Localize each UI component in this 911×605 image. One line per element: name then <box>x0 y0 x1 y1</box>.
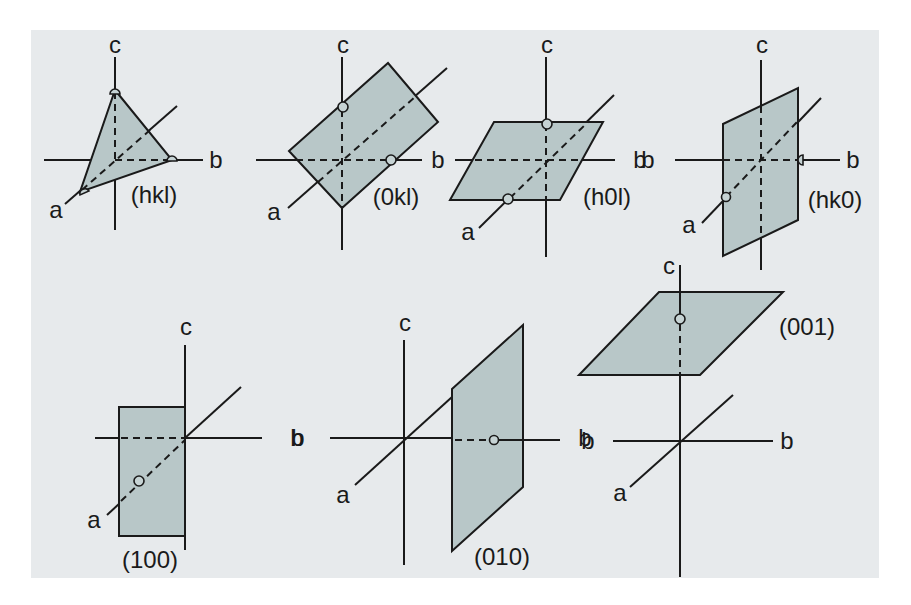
axis-label-b-left: b <box>290 426 303 450</box>
intercept-b <box>490 436 499 445</box>
intercept-b <box>167 156 177 161</box>
axis-label-a: a <box>267 200 280 224</box>
plane-label-001: (001) <box>779 315 835 339</box>
plane-label-h0l: (h0l) <box>583 185 631 209</box>
plane-hkl <box>80 90 172 192</box>
axis-label-a: a <box>461 220 474 244</box>
axis-label-c: c <box>756 33 768 57</box>
intercept-c <box>338 102 348 112</box>
panel-001 <box>579 265 783 577</box>
axis-label-c: c <box>180 315 192 339</box>
intercept-b <box>386 155 396 165</box>
intercept-a <box>134 476 144 486</box>
axis-label-b-right: b <box>846 148 859 172</box>
panel-0kl <box>256 57 447 250</box>
intercept-a <box>503 194 513 204</box>
intercept-c <box>110 89 120 94</box>
intercept-b <box>798 155 803 165</box>
panel-hkl <box>44 57 203 230</box>
panel-hk0 <box>675 60 840 270</box>
plane-label-010: (010) <box>474 545 530 569</box>
intercept-a <box>80 189 89 195</box>
intercept-a <box>722 193 731 202</box>
intercept-c <box>675 314 685 324</box>
axis-label-c: c <box>337 33 349 57</box>
axis-label-a: a <box>49 198 62 222</box>
axis-label-a: a <box>87 508 100 532</box>
axis-label-a: a <box>336 483 349 507</box>
miller-planes-diagram <box>0 0 911 605</box>
panel-100 <box>95 345 262 550</box>
axis-label-b: b <box>431 148 444 172</box>
intercept-c <box>542 119 552 129</box>
axis-label-a: a <box>613 481 626 505</box>
axis-label-c: c <box>663 254 675 278</box>
plane-010 <box>452 325 523 551</box>
axis-label-b-right: b <box>780 429 793 453</box>
axis-label-a: a <box>682 213 695 237</box>
plane-label-hkl: (hkl) <box>131 183 178 207</box>
axis-label-b: b <box>209 148 222 172</box>
plane-label-100: (100) <box>122 548 178 572</box>
panel-010 <box>330 325 560 565</box>
axis-label-c: c <box>109 33 121 57</box>
plane-label-0kl: (0kl) <box>373 185 420 209</box>
panel-h0l <box>450 57 615 257</box>
plane-label-hk0: (hk0) <box>808 188 863 212</box>
axis-label-b-left: b <box>641 148 654 172</box>
axis-label-c: c <box>541 33 553 57</box>
axis-label-c: c <box>399 311 411 335</box>
axis-label-b-left: b <box>581 429 594 453</box>
